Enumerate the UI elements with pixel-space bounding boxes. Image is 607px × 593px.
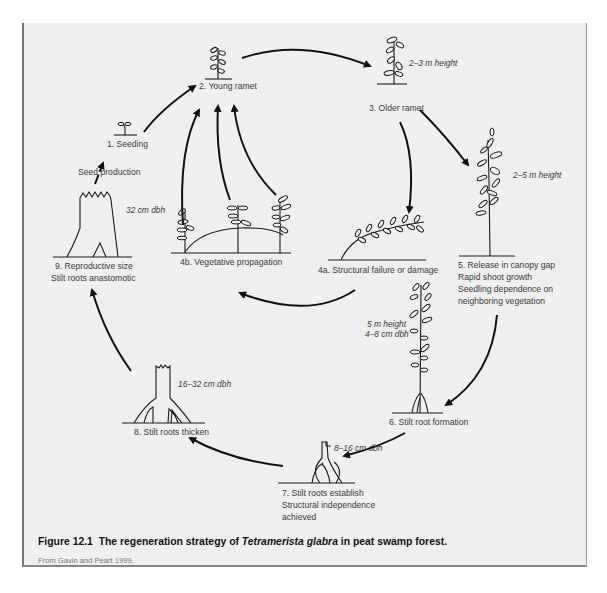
dbh-4-8cm-note: 4–8 cm dbh <box>365 329 409 339</box>
stage-5-line-4: neighboring vegetation <box>458 296 545 306</box>
stage-3-label: 3. Older ramet <box>369 103 425 113</box>
arrow-2-to-3 <box>242 50 370 66</box>
young-ramet-icon <box>205 47 232 79</box>
stage-4a-label: 4a. Structural failure or damage <box>318 265 439 275</box>
stage-4b-label: 4b. Vegetative propagation <box>180 257 282 267</box>
figure-source: From Gavin and Peart 1999. <box>38 556 134 565</box>
regeneration-cycle-diagram: 1. Seeding Seed production 2. Young rame… <box>0 0 607 593</box>
stage-9-line-1: 9. Reproductive size <box>55 261 133 271</box>
figure-number: Figure 12.1 <box>38 536 93 547</box>
stage-2-label: 2. Young ramet <box>199 81 257 91</box>
arrow-1-to-2 <box>144 86 195 132</box>
height-2-3m-note: 2–3 m height <box>408 58 458 68</box>
arrow-3-to-4a <box>400 122 411 212</box>
sapling-icon <box>459 128 515 256</box>
stage-5-line-3: Seedling dependence on <box>458 284 553 294</box>
arrow-4b-to-2-right <box>234 106 276 195</box>
arrow-3-to-5 <box>420 110 468 165</box>
cycle-arrows <box>92 50 497 466</box>
arrow-4b-to-2-left <box>182 110 199 225</box>
mature-stilt-tree-icon <box>53 192 132 257</box>
stage-1-label: 1. Seeding <box>107 139 148 149</box>
seedling-icon <box>114 122 137 135</box>
stage-7-line-2: Structural independence <box>282 500 375 510</box>
stage-7-line-3: achieved <box>282 512 317 522</box>
dbh-32cm-note: 32 cm dbh <box>126 205 165 215</box>
arrow-7-to-8 <box>190 438 283 466</box>
stage-8-label: 8. Stilt roots thicken <box>134 427 209 437</box>
stilt-tree-thick-roots-icon <box>122 365 205 423</box>
arrow-4b-to-2-middle <box>218 106 231 200</box>
dbh-16-32cm-note: 16–32 cm dbh <box>178 379 231 389</box>
vegetative-propagation-icon <box>171 195 291 253</box>
seed-production-label: Seed production <box>78 167 141 177</box>
caption-text-pre: The regeneration strategy of <box>99 536 242 547</box>
caption-text-post: in peat swamp forest. <box>338 536 447 547</box>
height-2-5m-note: 2–5 m height <box>512 170 562 180</box>
fallen-stem-icon <box>328 215 426 260</box>
figure-caption: Figure 12.1 The regeneration strategy of… <box>38 536 447 547</box>
stage-5-line-1: 5. Release in canopy gap <box>458 260 555 270</box>
arrow-4a-to-4b <box>240 290 355 306</box>
stilt-root-sapling-icon <box>392 282 443 413</box>
height-5m-note: 5 m height <box>367 319 407 329</box>
older-ramet-icon <box>377 36 407 84</box>
arrow-8-to-9 <box>92 290 131 371</box>
stage-6-label: 6. Stilt root formation <box>389 417 469 427</box>
stage-9-line-2: Stilt roots anastomotic <box>51 273 136 283</box>
arrow-5-to-6 <box>446 315 497 405</box>
stage-5-line-2: Rapid shoot growth <box>458 272 532 282</box>
stage-7-line-1: 7. Stilt roots establish <box>282 488 364 498</box>
caption-species: Tetramerista glabra <box>242 536 338 547</box>
